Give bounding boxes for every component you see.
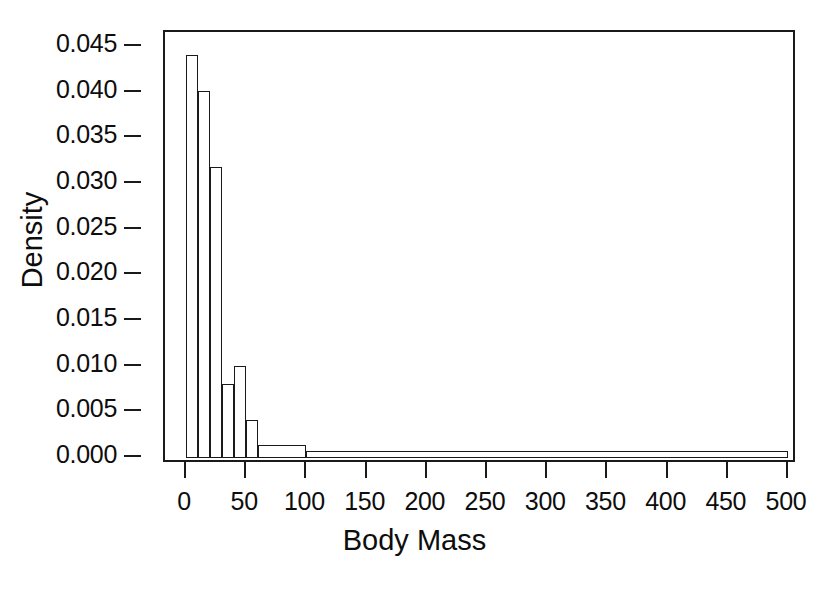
y-axis-tick — [124, 44, 141, 46]
histogram-bar — [210, 167, 222, 457]
y-axis-tick-label: 0.015 — [56, 305, 117, 330]
y-axis-tick — [124, 455, 141, 457]
y-axis-tick-label: 0.045 — [56, 31, 117, 56]
y-axis-tick-label: 0.030 — [56, 168, 117, 193]
y-axis-tick — [124, 135, 141, 137]
x-axis-tick — [605, 462, 607, 478]
y-axis-tick-label: 0.020 — [56, 259, 117, 284]
histogram-bar — [258, 445, 306, 457]
x-axis: Body Mass 050100150200250300350400450500 — [0, 462, 829, 590]
histogram-bar — [222, 384, 234, 457]
x-axis-tick — [726, 462, 728, 478]
y-axis-tick — [124, 364, 141, 366]
histogram-bars — [165, 32, 797, 464]
x-axis-tick — [666, 462, 668, 478]
plot-area — [163, 30, 795, 462]
x-axis-tick — [244, 462, 246, 478]
x-axis-tick-label: 400 — [645, 488, 686, 514]
x-axis-tick-label: 350 — [585, 488, 626, 514]
x-axis-tick — [365, 462, 367, 478]
y-axis-tick — [124, 272, 141, 274]
histogram-bar — [246, 420, 258, 457]
x-axis-tick-label: 50 — [231, 488, 258, 514]
x-axis-tick-label: 300 — [525, 488, 566, 514]
y-axis-tick — [124, 181, 141, 183]
x-axis-tick-label: 100 — [284, 488, 325, 514]
x-axis-tick-label: 200 — [404, 488, 445, 514]
x-axis-tick — [786, 462, 788, 478]
y-axis-tick-label: 0.025 — [56, 214, 117, 239]
x-axis-tick-label: 450 — [705, 488, 746, 514]
histogram-bar — [186, 55, 198, 457]
y-axis-tick-label: 0.010 — [56, 351, 117, 376]
y-axis-tick-label: 0.005 — [56, 396, 117, 421]
x-axis-tick-label: 500 — [766, 488, 807, 514]
y-axis-tick — [124, 227, 141, 229]
y-axis-tick — [124, 409, 141, 411]
histogram-baseline — [186, 457, 788, 458]
x-axis-tick-label: 0 — [177, 488, 191, 514]
y-axis-tick-label: 0.040 — [56, 77, 117, 102]
x-axis-tick — [425, 462, 427, 478]
x-axis-title: Body Mass — [0, 525, 829, 555]
histogram-bar — [234, 366, 246, 457]
x-axis-tick-label: 150 — [344, 488, 385, 514]
histogram-bar — [198, 91, 210, 457]
x-axis-tick — [304, 462, 306, 478]
x-axis-tick — [184, 462, 186, 478]
y-axis-tick — [124, 90, 141, 92]
y-axis-tick — [124, 318, 141, 320]
x-axis-tick-label: 250 — [465, 488, 506, 514]
y-axis-tick-label: 0.035 — [56, 122, 117, 147]
histogram-figure: Density 0.0000.0050.0100.0150.0200.0250.… — [0, 0, 829, 590]
x-axis-tick — [545, 462, 547, 478]
x-axis-tick — [485, 462, 487, 478]
